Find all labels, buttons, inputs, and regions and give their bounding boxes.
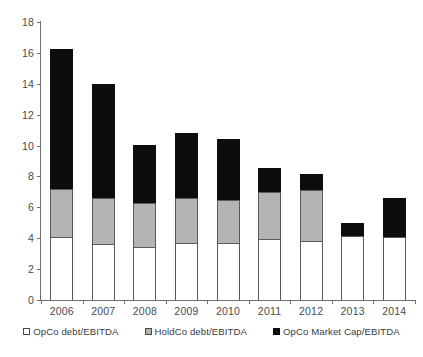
bar-segment-market-cap [92, 84, 115, 198]
y-axis-tick-mark [37, 238, 41, 239]
bar-segment-opco-debt [133, 247, 156, 300]
gray-square-icon [145, 328, 152, 335]
bar-segment-market-cap [258, 168, 281, 192]
y-axis-tick-label: 14 [22, 78, 34, 90]
y-axis-tick-label: 8 [28, 170, 34, 182]
x-axis-label-2008: 2008 [124, 305, 166, 317]
bar-2012 [300, 22, 323, 300]
legend-item-1[interactable]: HoldCo debt/EBITDA [145, 326, 247, 337]
y-axis-tick-mark [37, 207, 41, 208]
bar-2013 [341, 22, 364, 300]
y-axis-tick-mark [37, 176, 41, 177]
bar-segment-holdco-debt [92, 198, 115, 244]
bar-segment-holdco-debt [50, 189, 73, 238]
chart-legend: OpCo debt/EBITDAHoldCo debt/EBITDAOpCo M… [0, 326, 423, 337]
x-axis-tick-mark [207, 300, 208, 304]
x-axis-tick-mark [124, 300, 125, 304]
bar-segment-opco-debt [50, 237, 73, 300]
x-axis-tick-mark [166, 300, 167, 304]
legend-item-2[interactable]: OpCo Market Cap/EBITDA [273, 326, 400, 337]
bar-segment-opco-debt [300, 241, 323, 300]
bar-2009 [175, 22, 198, 300]
bar-segment-holdco-debt [258, 192, 281, 239]
bar-segment-market-cap [341, 223, 364, 236]
bar-segment-market-cap [175, 133, 198, 198]
bar-segment-market-cap [383, 198, 406, 237]
legend-item-0[interactable]: OpCo debt/EBITDA [23, 326, 118, 337]
x-axis-line [40, 300, 416, 301]
bar-2006 [50, 22, 73, 300]
y-axis-tick-mark [37, 115, 41, 116]
legend-item-label: OpCo debt/EBITDA [33, 326, 118, 337]
white-square-icon [23, 328, 30, 335]
bar-segment-opco-debt [92, 244, 115, 300]
bar-2010 [217, 22, 240, 300]
bar-segment-opco-debt [383, 237, 406, 300]
y-axis-tick-label: 16 [22, 47, 34, 59]
y-axis-tick-label: 18 [22, 16, 34, 28]
x-axis-tick-mark [332, 300, 333, 304]
y-axis-tick-label: 12 [22, 109, 34, 121]
x-axis-tick-mark [290, 300, 291, 304]
x-axis-label-2011: 2011 [249, 305, 291, 317]
legend-item-label: HoldCo debt/EBITDA [155, 326, 247, 337]
bar-segment-market-cap [217, 139, 240, 200]
y-axis-tick-label: 4 [28, 232, 34, 244]
x-axis-label-2014: 2014 [373, 305, 415, 317]
x-axis-tick-mark [373, 300, 374, 304]
bar-segment-market-cap [133, 145, 156, 204]
y-axis-tick-mark [37, 22, 41, 23]
y-axis-tick-mark [37, 53, 41, 54]
y-axis-tick-mark [37, 269, 41, 270]
legend-item-label: OpCo Market Cap/EBITDA [283, 326, 400, 337]
bar-segment-holdco-debt [217, 200, 240, 243]
y-axis-tick-label: 6 [28, 201, 34, 213]
y-axis-tick-mark [37, 146, 41, 147]
bar-2008 [133, 22, 156, 300]
bar-segment-opco-debt [258, 239, 281, 300]
y-axis-tick-label: 2 [28, 263, 34, 275]
stacked-bar-chart: 024681012141618 200620072008200920102011… [0, 0, 423, 357]
x-axis-tick-mark [249, 300, 250, 304]
bar-segment-market-cap [300, 174, 323, 190]
bar-segment-opco-debt [341, 236, 364, 300]
x-axis-label-2012: 2012 [290, 305, 332, 317]
x-axis-label-2009: 2009 [166, 305, 208, 317]
y-axis-tick-label: 0 [28, 294, 34, 306]
x-axis-tick-mark [41, 300, 42, 304]
y-axis-tick-mark [37, 84, 41, 85]
x-axis-label-2006: 2006 [41, 305, 83, 317]
bar-2014 [383, 22, 406, 300]
bar-segment-holdco-debt [300, 190, 323, 241]
bar-2011 [258, 22, 281, 300]
black-square-icon [273, 328, 280, 335]
x-axis-tick-mark [83, 300, 84, 304]
bar-segment-opco-debt [217, 243, 240, 300]
bar-segment-opco-debt [175, 243, 198, 300]
x-axis-tick-mark [415, 300, 416, 304]
bar-2007 [92, 22, 115, 300]
x-axis-label-2007: 2007 [83, 305, 125, 317]
y-axis-tick-label: 10 [22, 140, 34, 152]
x-axis-label-2010: 2010 [207, 305, 249, 317]
x-axis-label-2013: 2013 [332, 305, 374, 317]
bar-segment-market-cap [50, 49, 73, 189]
bar-segment-holdco-debt [133, 203, 156, 246]
bar-segment-holdco-debt [175, 198, 198, 243]
